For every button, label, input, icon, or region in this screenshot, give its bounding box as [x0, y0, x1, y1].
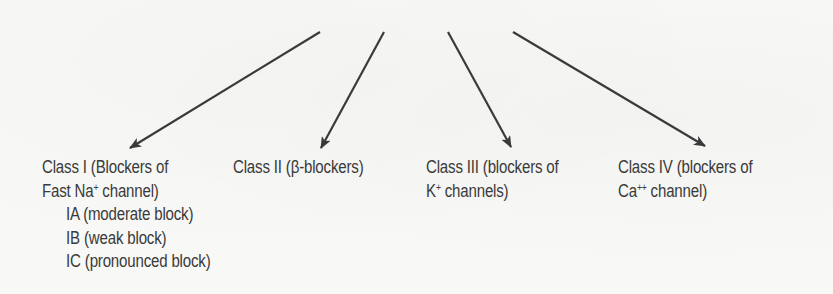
class-1-title: Class I (Blockers of [42, 156, 211, 180]
class-1-target-rest: channel) [98, 181, 158, 201]
class-3-title: Class III (blockers of [426, 156, 559, 180]
subclass-ia: IA (moderate block) [42, 203, 211, 227]
subclass-ib: IB (weak block) [42, 227, 211, 251]
class-3-target-rest: channels) [441, 181, 509, 201]
class-3-node: Class III (blockers of K+ channels) [426, 156, 559, 203]
antiarrhythmic-classification-diagram: Class I (Blockers of Fast Na+ channel) I… [0, 0, 833, 294]
class-2-title: Class II (β-blockers) [233, 156, 363, 180]
arrow-to-class-2 [321, 32, 384, 148]
arrow-to-class-4 [513, 32, 705, 146]
arrow-to-class-1 [130, 32, 320, 148]
class-1-target: Fast Na+ channel) [42, 180, 211, 204]
class-3-target: K+ channels) [426, 180, 559, 204]
class-4-node: Class IV (blockers of Ca++ channel) [618, 156, 752, 203]
class-4-ion: Ca [618, 181, 637, 201]
class-4-target-rest: channel) [647, 181, 707, 201]
class-4-target: Ca++ channel) [618, 180, 752, 204]
class-1-ion: Fast Na [42, 181, 93, 201]
subclass-ic: IC (pronounced block) [42, 250, 211, 274]
class-4-title: Class IV (blockers of [618, 156, 752, 180]
class-2-node: Class II (β-blockers) [233, 156, 363, 180]
class-1-node: Class I (Blockers of Fast Na+ channel) I… [42, 156, 211, 274]
class-4-charge: ++ [637, 182, 647, 193]
arrow-to-class-3 [448, 32, 511, 147]
class-3-ion: K [426, 181, 436, 201]
